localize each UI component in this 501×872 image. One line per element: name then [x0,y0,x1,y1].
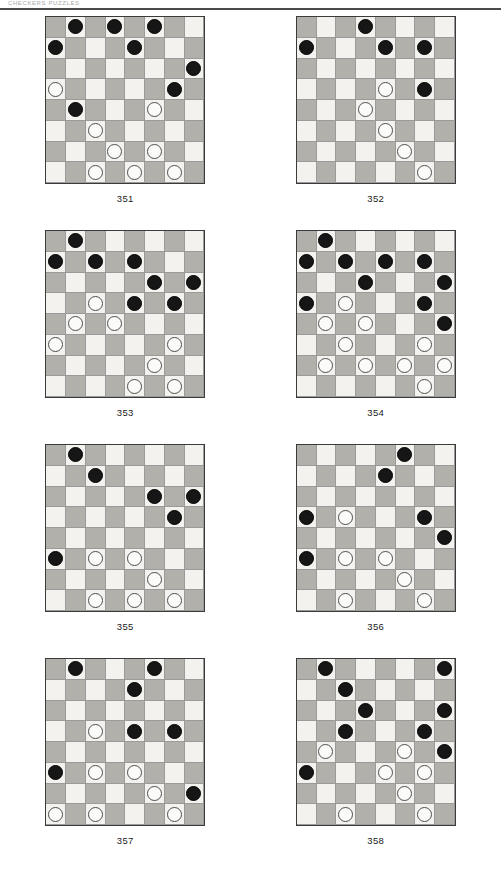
board-square[interactable] [356,763,376,784]
board-square[interactable] [376,142,396,163]
board-square[interactable] [415,335,435,356]
board-square[interactable] [145,273,165,294]
board-square[interactable] [185,231,205,252]
checkers-board[interactable] [296,16,456,184]
board-square[interactable] [297,507,317,528]
board-square[interactable] [106,466,126,487]
white-checker-piece[interactable] [397,144,412,159]
board-square[interactable] [106,487,126,508]
board-square[interactable] [396,356,416,377]
board-square[interactable] [46,100,66,121]
board-square[interactable] [46,701,66,722]
board-square[interactable] [396,701,416,722]
board-square[interactable] [396,231,416,252]
board-square[interactable] [86,721,106,742]
board-square[interactable] [317,252,337,273]
board-square[interactable] [106,784,126,805]
board-square[interactable] [66,162,86,183]
board-square[interactable] [165,273,185,294]
black-checker-piece[interactable] [147,489,162,504]
white-checker-piece[interactable] [107,144,122,159]
black-checker-piece[interactable] [417,40,432,55]
board-square[interactable] [336,335,356,356]
board-square[interactable] [297,680,317,701]
board-square[interactable] [415,376,435,397]
board-square[interactable] [185,38,205,59]
board-square[interactable] [317,721,337,742]
black-checker-piece[interactable] [186,786,201,801]
board-square[interactable] [336,100,356,121]
board-square[interactable] [185,804,205,825]
board-square[interactable] [125,142,145,163]
board-square[interactable] [376,721,396,742]
black-checker-piece[interactable] [127,296,142,311]
board-square[interactable] [185,445,205,466]
board-square[interactable] [86,784,106,805]
white-checker-piece[interactable] [88,724,103,739]
board-square[interactable] [106,59,126,80]
black-checker-piece[interactable] [127,682,142,697]
board-square[interactable] [297,528,317,549]
board-square[interactable] [317,549,337,570]
board-square[interactable] [376,121,396,142]
black-checker-piece[interactable] [417,82,432,97]
board-square[interactable] [46,487,66,508]
black-checker-piece[interactable] [167,296,182,311]
board-square[interactable] [185,59,205,80]
board-square[interactable] [46,79,66,100]
board-square[interactable] [376,549,396,570]
board-square[interactable] [376,59,396,80]
board-square[interactable] [86,335,106,356]
board-square[interactable] [145,680,165,701]
board-square[interactable] [66,721,86,742]
board-square[interactable] [145,162,165,183]
board-square[interactable] [356,680,376,701]
board-square[interactable] [66,590,86,611]
board-square[interactable] [435,763,455,784]
board-square[interactable] [297,252,317,273]
board-square[interactable] [125,356,145,377]
board-square[interactable] [336,549,356,570]
board-square[interactable] [165,376,185,397]
black-checker-piece[interactable] [338,724,353,739]
board-square[interactable] [396,528,416,549]
board-square[interactable] [165,487,185,508]
board-square[interactable] [336,570,356,591]
board-square[interactable] [106,314,126,335]
board-square[interactable] [185,549,205,570]
board-square[interactable] [86,231,106,252]
board-square[interactable] [435,659,455,680]
board-square[interactable] [125,100,145,121]
board-square[interactable] [376,528,396,549]
board-square[interactable] [125,231,145,252]
board-square[interactable] [86,17,106,38]
board-square[interactable] [86,466,106,487]
board-square[interactable] [145,528,165,549]
white-checker-piece[interactable] [167,593,182,608]
black-checker-piece[interactable] [299,551,314,566]
board-square[interactable] [356,507,376,528]
board-square[interactable] [185,162,205,183]
white-checker-piece[interactable] [417,165,432,180]
board-square[interactable] [317,570,337,591]
board-square[interactable] [297,721,317,742]
board-square[interactable] [106,100,126,121]
board-square[interactable] [415,59,435,80]
board-square[interactable] [86,314,106,335]
board-square[interactable] [297,335,317,356]
board-square[interactable] [415,507,435,528]
black-checker-piece[interactable] [48,254,63,269]
board-square[interactable] [66,231,86,252]
board-square[interactable] [145,570,165,591]
board-square[interactable] [86,528,106,549]
board-square[interactable] [376,570,396,591]
board-square[interactable] [435,38,455,59]
black-checker-piece[interactable] [167,510,182,525]
white-checker-piece[interactable] [397,744,412,759]
board-square[interactable] [165,445,185,466]
board-square[interactable] [106,804,126,825]
board-square[interactable] [415,273,435,294]
board-square[interactable] [106,721,126,742]
board-square[interactable] [185,570,205,591]
board-square[interactable] [165,742,185,763]
